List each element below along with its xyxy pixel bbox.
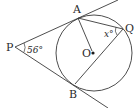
angle-arc-p bbox=[24, 43, 25, 52]
center-point-o bbox=[91, 51, 94, 54]
label-o: O bbox=[82, 47, 91, 60]
label-a: A bbox=[72, 3, 82, 16]
geometry-diagram: P A B Q O 56° x° bbox=[0, 0, 137, 108]
angle-label-p: 56° bbox=[27, 45, 43, 55]
label-b: B bbox=[69, 88, 77, 101]
tangent-line-pa bbox=[15, 0, 118, 47]
segment-aq bbox=[78, 18, 123, 29]
angle-arc-q bbox=[115, 27, 117, 35]
angle-label-q: x° bbox=[104, 29, 114, 39]
tangent-line-pb bbox=[15, 47, 108, 108]
label-q: Q bbox=[125, 22, 134, 35]
label-p: P bbox=[6, 41, 14, 54]
